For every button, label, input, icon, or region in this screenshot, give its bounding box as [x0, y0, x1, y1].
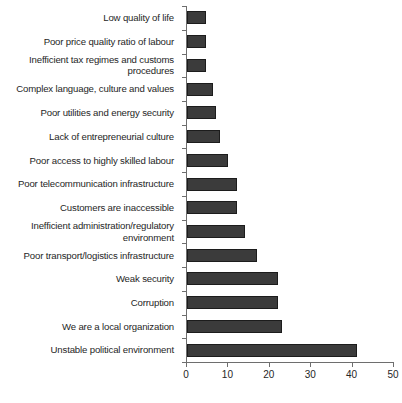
- y-axis-tick: [182, 267, 186, 268]
- y-axis-tick: [182, 172, 186, 173]
- x-axis-tick: [393, 362, 394, 367]
- y-axis-tick: [182, 125, 186, 126]
- y-axis-tick: [182, 291, 186, 292]
- bar: [187, 106, 216, 119]
- bar: [187, 130, 220, 143]
- y-axis-tick: [182, 77, 186, 78]
- x-axis-tick-label: 40: [337, 369, 367, 380]
- bar: [187, 154, 228, 167]
- category-label-column: Low quality of lifePoor price quality ra…: [0, 6, 180, 362]
- x-axis-tick: [227, 362, 228, 367]
- x-axis-tick-label: 50: [378, 369, 402, 380]
- y-axis-tick: [182, 315, 186, 316]
- category-label: Inefficient administration/regulatory en…: [0, 220, 174, 243]
- x-axis: 01020304050: [186, 362, 394, 402]
- y-axis-tick: [182, 148, 186, 149]
- bar: [187, 59, 206, 72]
- x-axis-line: [186, 362, 394, 363]
- category-label: Customers are inaccessible: [0, 202, 174, 213]
- y-axis-tick: [182, 30, 186, 31]
- bar: [187, 296, 278, 309]
- bar: [187, 83, 213, 96]
- x-axis-tick-label: 30: [295, 369, 325, 380]
- y-axis-tick: [182, 243, 186, 244]
- y-axis-tick: [182, 54, 186, 55]
- y-axis-tick: [182, 220, 186, 221]
- x-axis-tick: [186, 362, 187, 367]
- x-axis-tick-label: 0: [171, 369, 201, 380]
- bar: [187, 178, 237, 191]
- bar: [187, 201, 237, 214]
- category-label: Poor price quality ratio of labour: [0, 36, 174, 47]
- x-axis-tick-label: 20: [254, 369, 284, 380]
- y-axis-tick: [182, 196, 186, 197]
- bar: [187, 272, 278, 285]
- bar: [187, 320, 282, 333]
- plot-area: [186, 6, 393, 362]
- x-axis-tick: [352, 362, 353, 367]
- bar: [187, 344, 357, 357]
- y-axis-tick: [182, 101, 186, 102]
- y-axis-tick: [182, 338, 186, 339]
- category-label: Weak security: [0, 273, 174, 284]
- category-label: Corruption: [0, 297, 174, 308]
- bar: [187, 11, 206, 24]
- category-label: Poor access to highly skilled labour: [0, 155, 174, 166]
- category-label: Poor telecommunication infrastructure: [0, 178, 174, 189]
- category-label: Unstable political environment: [0, 344, 174, 355]
- category-label: Poor transport/logistics infrastructure: [0, 250, 174, 261]
- category-label: Inefficient tax regimes and customs proc…: [0, 54, 174, 77]
- category-label: Lack of entrepreneurial culture: [0, 131, 174, 142]
- category-label: Poor utilities and energy security: [0, 107, 174, 118]
- y-axis-tick: [182, 6, 186, 7]
- category-label: We are a local organization: [0, 321, 174, 332]
- category-label: Low quality of life: [0, 12, 174, 23]
- x-axis-tick-label: 10: [212, 369, 242, 380]
- bar: [187, 225, 245, 238]
- category-label: Complex language, culture and values: [0, 83, 174, 94]
- x-axis-tick: [269, 362, 270, 367]
- x-axis-tick: [310, 362, 311, 367]
- bar: [187, 249, 257, 262]
- bar-chart: Low quality of lifePoor price quality ra…: [0, 0, 402, 403]
- bar: [187, 35, 206, 48]
